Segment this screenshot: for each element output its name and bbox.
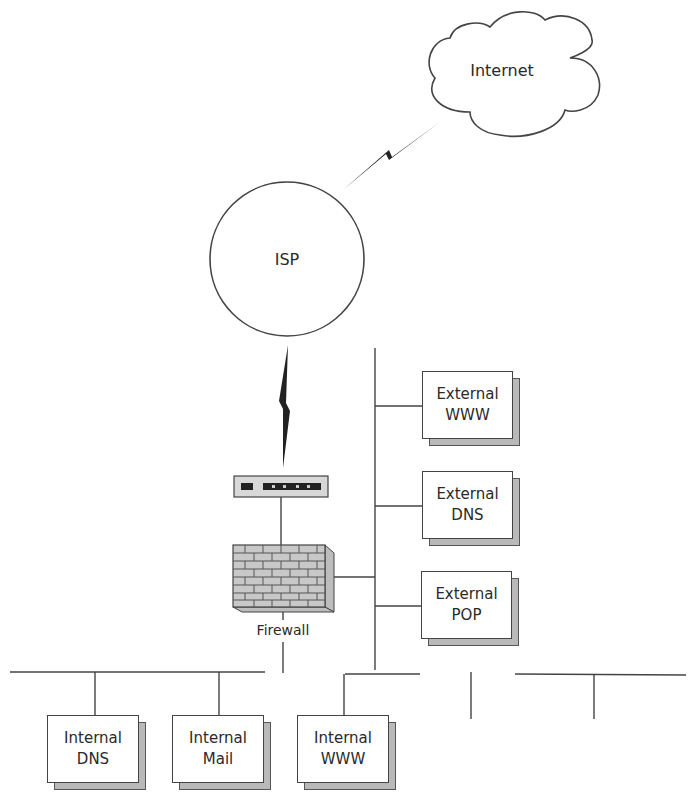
network-diagram: [0, 0, 694, 807]
internet-label: Internet: [462, 60, 542, 81]
server-label-line2: Mail: [203, 749, 233, 770]
server-label-line2: DNS: [451, 505, 483, 526]
server-label-line1: Internal: [189, 728, 247, 749]
router-device-icon: [234, 476, 328, 497]
isp-label: ISP: [257, 249, 317, 270]
internal-dns-server: InternalDNS: [47, 715, 139, 783]
server-label-line1: External: [435, 584, 497, 605]
server-label-line1: External: [436, 384, 498, 405]
server-label-line1: Internal: [314, 728, 372, 749]
server-label-line2: DNS: [77, 749, 109, 770]
wan-link-lightning-icon: [343, 122, 440, 190]
external-pop-server: ExternalPOP: [421, 571, 512, 639]
server-label-line2: WWW: [445, 405, 490, 426]
wan-link-lightning-icon: [279, 345, 290, 468]
firewall-brick-icon: [233, 545, 334, 612]
server-label-line2: POP: [452, 605, 482, 626]
external-www-server: ExternalWWW: [422, 371, 513, 439]
internal-www-server: InternalWWW: [297, 715, 389, 783]
external-dns-server: ExternalDNS: [422, 471, 513, 539]
server-label-line2: WWW: [321, 749, 366, 770]
internal-mail-server: InternalMail: [172, 715, 264, 783]
server-label-line1: Internal: [64, 728, 122, 749]
firewall-label: Firewall: [243, 620, 323, 641]
server-label-line1: External: [436, 484, 498, 505]
